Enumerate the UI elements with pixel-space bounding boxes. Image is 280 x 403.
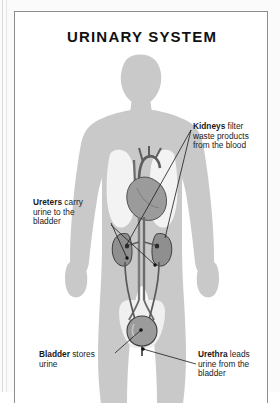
right-kidney-hilum bbox=[125, 243, 129, 248]
callout-bladder: Bladder stores urine bbox=[39, 350, 119, 369]
leader-dot-ureter-right bbox=[125, 256, 128, 259]
leader-dot-urethra bbox=[141, 347, 145, 351]
leader-dot-ureter-left bbox=[153, 263, 156, 266]
left-hand-shape bbox=[65, 261, 87, 298]
left-kidney bbox=[152, 233, 172, 266]
right-hand-shape bbox=[197, 261, 219, 298]
leader-dot-bladder bbox=[139, 328, 143, 332]
left-kidney-hilum bbox=[155, 243, 159, 248]
page-edge-line-inner bbox=[6, 0, 7, 392]
head-shape bbox=[121, 55, 161, 105]
callout-kidneys: Kidneys filter waste products from the b… bbox=[193, 122, 268, 151]
callout-kidneys-term: Kidneys bbox=[193, 121, 225, 131]
callout-urethra: Urethra leads urine from the bladder bbox=[198, 350, 268, 379]
callout-bladder-term: Bladder bbox=[39, 349, 70, 359]
callout-ureters-term: Ureters bbox=[33, 197, 62, 207]
callout-urethra-term: Urethra bbox=[198, 349, 228, 359]
callout-ureters: Ureters carry urine to the bladder bbox=[33, 198, 111, 227]
page-edge-line-outer bbox=[2, 0, 3, 392]
right-kidney bbox=[112, 233, 132, 266]
figure-frame: URINARY SYSTEM bbox=[14, 11, 268, 403]
